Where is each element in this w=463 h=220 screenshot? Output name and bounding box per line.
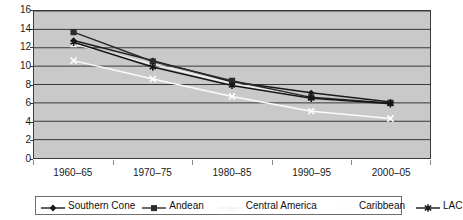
legend-key-triangle-icon [218,200,244,212]
chart-legend: Southern Cone Andean Central America [35,196,402,215]
plot-area [33,10,431,159]
x-tick-label-1990-95: 1990–95 [272,167,352,178]
y-tick-label-4: 4 [3,117,31,127]
series-line-lac [74,42,391,104]
legend-item-central-america: Central America [218,197,317,214]
legend-item-caribbean: Caribbean [331,197,405,214]
y-tick-label-14: 14 [3,24,31,34]
y-tick-label-10: 10 [3,61,31,71]
legend-label-caribbean: Caribbean [359,200,405,212]
x-tick-mark [113,160,114,165]
y-tick-label-2: 2 [3,135,31,145]
x-tick-label-1970-75: 1970–75 [113,167,193,178]
y-tick-label-12: 12 [3,42,31,52]
legend-key-square-icon [141,200,167,212]
legend-item-southern-cone: Southern Cone [40,197,135,214]
x-tick-label-2000-05: 2000–05 [351,167,431,178]
x-tick-mark [33,160,34,165]
y-tick-label-0: 0 [3,154,31,164]
series-line-caribbean [74,61,391,119]
x-tick-mark [272,160,273,165]
plot-canvas [34,11,430,158]
legend-label-lac: LAC [443,200,462,212]
y-axis: 16 14 12 10 8 6 4 2 0 [0,10,31,159]
legend-key-asterisk-icon [415,200,441,212]
legend-label-andean: Andean [169,200,203,212]
x-tick-mark [430,160,431,165]
legend-item-lac: LAC [415,197,462,214]
y-tick-label-8: 8 [3,80,31,90]
x-tick-mark [192,160,193,165]
legend-label-southern-cone: Southern Cone [68,200,135,212]
legend-item-andean: Andean [141,197,203,214]
legend-label-central-america: Central America [246,200,317,212]
legend-key-diamond-icon [40,200,66,212]
y-tick-label-6: 6 [3,98,31,108]
x-tick-label-1960-65: 1960–65 [33,167,113,178]
series-line-andean [74,32,391,103]
x-tick-label-1980-85: 1980–85 [192,167,272,178]
legend-key-cross-icon [331,200,357,212]
y-tick-label-16: 16 [3,5,31,15]
x-tick-mark [351,160,352,165]
x-axis: 1960–65 1970–75 1980–85 1990–95 2000–05 [33,160,431,186]
data-point-marker [71,29,77,35]
